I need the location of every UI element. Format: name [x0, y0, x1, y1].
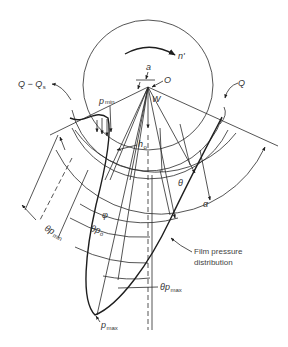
dim-line-left-inner: [58, 170, 88, 238]
radial-ray-1: [118, 87, 148, 280]
center-label: O: [164, 75, 171, 85]
load-label: W: [152, 94, 162, 104]
inflow-arrow: [225, 83, 238, 98]
alpha-arc: [56, 147, 265, 214]
eccentricity-arrow-lower: [138, 82, 140, 89]
tick-r2: [180, 124, 190, 165]
p-min-leader: [110, 106, 111, 132]
journal-circle: [83, 20, 213, 150]
theta-po-arc: [70, 218, 150, 237]
eccentricity-arrow: [146, 72, 148, 79]
journal-bearing-diagram: n' a O W pmin ho: [0, 0, 288, 347]
h-o-label: ho: [138, 139, 148, 150]
leakage-flow-arrow: [52, 84, 71, 100]
p-max-ray: [97, 87, 148, 315]
theta-p-o-label: θpo: [89, 223, 106, 237]
p-max-label: pmax: [100, 320, 118, 331]
alpha-left-tick: [60, 137, 65, 150]
center-leader: [152, 81, 163, 87]
phi-label: φ: [102, 210, 108, 220]
dim-line-left-outer: [25, 135, 58, 210]
theta-p-max-arc: [103, 276, 150, 279]
inflow-label: Q: [238, 78, 245, 88]
theta-p-max-label: θpmax: [160, 282, 182, 293]
rotation-label: n': [178, 51, 185, 61]
radial-ray-2: [130, 87, 148, 180]
film-pressure-leader: [171, 238, 192, 252]
film-pressure-label-line1: Film pressure: [194, 247, 243, 256]
leakage-flow-label: Q − Qs: [18, 79, 46, 90]
h-o-ray-2: [110, 87, 148, 180]
theta-label: θ: [178, 178, 183, 188]
radial-ray-4: [148, 87, 195, 173]
rotation-arrow: [125, 47, 175, 55]
eccentricity-label: a: [146, 62, 151, 72]
theta-p-min-tick: [22, 205, 36, 220]
p-min-label: pmin: [98, 96, 115, 106]
p-max-leader: [96, 316, 100, 322]
alpha-label: α: [203, 199, 209, 209]
tick-r1: [160, 128, 162, 172]
dim-line-left-dashed: [40, 158, 72, 220]
theta-p-min-label: θpmin: [43, 223, 66, 242]
film-pressure-label-line2: distribution: [194, 258, 233, 267]
